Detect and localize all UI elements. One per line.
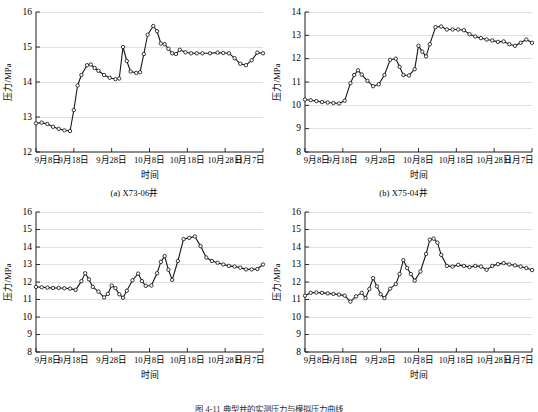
y-tick-label: 9	[296, 329, 301, 339]
data-point-marker	[138, 71, 141, 74]
y-tick-label: 14	[23, 242, 33, 252]
data-point-marker	[383, 296, 386, 299]
x-tick-label: 9月28日	[96, 155, 127, 165]
data-point-marker	[216, 261, 219, 264]
data-point-marker	[519, 265, 522, 268]
data-point-marker	[136, 272, 139, 275]
data-point-marker	[129, 70, 132, 73]
data-point-marker	[303, 294, 306, 297]
data-point-marker	[375, 285, 378, 288]
data-point-marker	[144, 284, 147, 287]
data-point-marker	[530, 41, 533, 44]
figure-four-panel-pressure-curves: 12131415169月8日9月18日9月28日10月8日10月18日10月28…	[0, 0, 538, 412]
y-tick-label: 12	[23, 147, 33, 157]
data-point-marker	[398, 65, 401, 68]
y-axis-title: 压力/MPa	[271, 263, 282, 300]
x-tick-label: 10月8日	[403, 355, 434, 365]
data-point-marker	[428, 43, 431, 46]
plot-area-a: 12131415169月8日9月18日9月28日10月8日10月18日10月28…	[0, 0, 269, 200]
data-point-marker	[135, 71, 138, 74]
x-tick-label: 9月18日	[327, 355, 358, 365]
y-tick-label: 8	[296, 147, 301, 157]
data-point-marker	[343, 294, 346, 297]
x-tick-label: 9月28日	[96, 355, 127, 365]
data-point-marker	[519, 41, 522, 44]
data-point-marker	[525, 38, 528, 41]
data-point-marker	[343, 99, 346, 102]
y-tick-label: 8	[27, 347, 32, 357]
data-point-marker	[201, 52, 204, 55]
data-point-marker	[326, 101, 329, 104]
data-point-marker	[409, 272, 412, 275]
plot-area-c: 89101112131415169月8日9月18日9月28日10月8日10月18…	[0, 200, 269, 400]
y-tick-label: 12	[292, 53, 302, 63]
data-point-marker	[83, 272, 86, 275]
y-tick-label: 16	[23, 7, 33, 17]
data-point-marker	[118, 293, 121, 296]
data-point-marker	[155, 272, 158, 275]
x-tick-label: 10月8日	[134, 155, 165, 165]
data-point-marker	[445, 264, 448, 267]
data-point-marker	[91, 285, 94, 288]
data-point-marker	[349, 300, 352, 303]
x-axis-title: 时间	[410, 169, 428, 180]
data-point-marker	[379, 293, 382, 296]
data-point-marker	[315, 291, 318, 294]
y-tick-label: 11	[23, 294, 32, 304]
data-point-marker	[34, 285, 37, 288]
y-tick-label: 13	[292, 30, 302, 40]
data-point-marker	[513, 264, 516, 267]
data-point-marker	[118, 77, 121, 80]
data-point-marker	[440, 253, 443, 256]
data-point-marker	[227, 52, 230, 55]
data-point-marker	[250, 59, 253, 62]
data-point-marker	[261, 52, 264, 55]
data-point-marker	[233, 57, 236, 60]
data-point-marker	[152, 24, 155, 27]
data-point-marker	[159, 42, 162, 45]
data-point-marker	[193, 235, 196, 238]
y-axis-title: 压力/MPa	[2, 63, 13, 100]
data-point-marker	[394, 57, 397, 60]
data-point-marker	[46, 122, 49, 125]
x-tick-label: 10月18日	[170, 155, 205, 165]
data-point-marker	[171, 278, 174, 281]
data-point-marker	[121, 296, 124, 299]
chart-svg-b: 8910111213149月8日9月18日9月28日10月8日10月18日10月…	[269, 0, 538, 200]
y-tick-label: 14	[292, 7, 302, 17]
data-point-marker	[502, 40, 505, 43]
data-point-marker	[40, 121, 43, 124]
data-point-marker	[167, 268, 170, 271]
data-point-marker	[68, 129, 71, 132]
data-point-marker	[332, 101, 335, 104]
x-tick-label: 9月18日	[58, 155, 89, 165]
x-tick-label: 9月8日	[35, 355, 62, 365]
data-point-marker	[451, 28, 454, 31]
data-point-marker	[87, 278, 90, 281]
data-point-marker	[462, 264, 465, 267]
data-point-marker	[182, 237, 185, 240]
y-tick-label: 13	[292, 259, 302, 269]
data-point-marker	[360, 291, 363, 294]
data-point-marker	[239, 266, 242, 269]
data-point-marker	[208, 52, 211, 55]
data-point-marker	[250, 268, 253, 271]
data-point-marker	[320, 291, 323, 294]
data-point-marker	[457, 263, 460, 266]
data-point-marker	[413, 279, 416, 282]
y-tick-label: 13	[23, 112, 33, 122]
data-point-marker	[502, 261, 505, 264]
data-point-marker	[491, 39, 494, 42]
data-point-marker	[457, 28, 460, 31]
data-point-marker	[474, 35, 477, 38]
chart-svg-d: 89101112131415169月8日9月18日9月28日10月8日10月18…	[269, 200, 538, 400]
data-point-marker	[445, 28, 448, 31]
data-point-marker	[51, 286, 54, 289]
data-point-marker	[256, 51, 259, 54]
data-point-marker	[46, 286, 49, 289]
data-point-marker	[402, 258, 405, 261]
data-point-marker	[150, 284, 153, 287]
data-point-marker	[114, 286, 117, 289]
x-tick-label: 11月7日	[235, 355, 266, 365]
data-point-marker	[368, 287, 371, 290]
